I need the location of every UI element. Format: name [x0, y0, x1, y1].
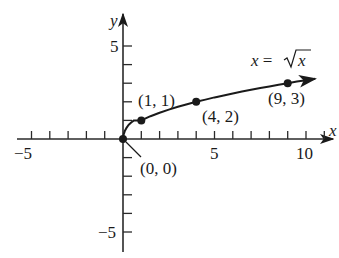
- x-tick-label: 5: [210, 144, 219, 163]
- y-tick-label: −5: [98, 223, 116, 242]
- sqrt-graph: −5 5 10 5 −5 y x x = x (0, 0) (1, 1) (4,…: [0, 0, 339, 258]
- equation-label: x = x: [250, 50, 311, 70]
- eq-radicand: x: [297, 51, 306, 70]
- svg-text:x =: x =: [250, 51, 272, 70]
- x-tick-label: −5: [14, 144, 32, 163]
- x-axis-label: x: [328, 121, 337, 140]
- point-label: (4, 2): [202, 107, 239, 126]
- point-label: (0, 0): [140, 159, 177, 178]
- point-4-2: [192, 98, 200, 106]
- y-axis-label: y: [108, 11, 118, 30]
- point-0-0: [119, 135, 127, 143]
- point-label: (1, 1): [138, 91, 175, 110]
- y-tick-label: 5: [110, 37, 119, 56]
- point-1-1: [137, 116, 145, 124]
- point-label: (9, 3): [268, 89, 305, 108]
- origin-leader-line: [126, 142, 141, 157]
- x-tick-label: 10: [296, 144, 313, 163]
- x-ticks: [32, 131, 325, 139]
- point-9-3: [284, 79, 292, 87]
